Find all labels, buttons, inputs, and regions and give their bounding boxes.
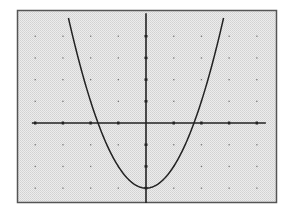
plot-frame bbox=[18, 11, 277, 203]
graph-plot bbox=[0, 0, 290, 216]
